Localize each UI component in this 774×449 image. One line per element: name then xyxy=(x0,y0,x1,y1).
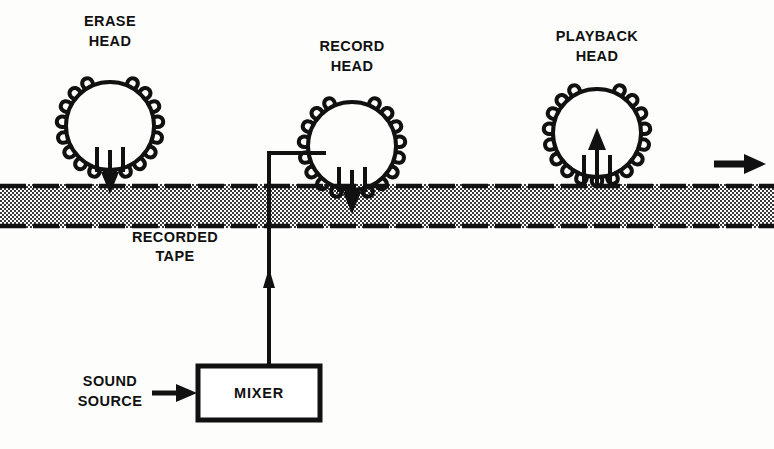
playback-head[interactable]: PLAYBACK HEAD xyxy=(544,28,650,187)
playback-flux-arrow-head xyxy=(588,128,606,150)
record-head-label-line1: RECORD xyxy=(319,38,384,54)
playback-head-label-line2: HEAD xyxy=(576,48,619,64)
sound-source-label-line1: SOUND xyxy=(83,373,137,389)
erase-head-label-line1: ERASE xyxy=(84,13,136,29)
sound-source-arrow-head xyxy=(176,384,197,402)
recorded-tape-label-line2: TAPE xyxy=(155,248,194,264)
tape-travel-arrow-head xyxy=(744,154,766,174)
mixer-box[interactable]: MIXER xyxy=(198,366,320,420)
tape-recorder-diagram: ERASE HEAD RECORD HEAD PLAYBACK HEAD xyxy=(0,0,774,449)
diagram-canvas: ERASE HEAD RECORD HEAD PLAYBACK HEAD xyxy=(0,0,774,449)
erase-head-label-line2: HEAD xyxy=(89,33,132,49)
erase-head[interactable]: ERASE HEAD xyxy=(57,13,163,194)
recorded-tape-label: RECORDED TAPE xyxy=(132,229,218,264)
playback-head-label-line1: PLAYBACK xyxy=(556,28,639,44)
recorded-tape-band xyxy=(0,184,774,228)
sound-source: SOUND SOURCE xyxy=(78,373,197,409)
tape-travel-arrow xyxy=(714,154,766,174)
mixer-label: MIXER xyxy=(234,385,284,401)
sound-source-label-line2: SOURCE xyxy=(78,393,142,409)
tape-fill xyxy=(0,184,774,228)
recorded-tape-label-line1: RECORDED xyxy=(132,229,218,245)
wire-direction-arrowhead xyxy=(263,268,275,288)
record-head-label-line2: HEAD xyxy=(331,58,374,74)
